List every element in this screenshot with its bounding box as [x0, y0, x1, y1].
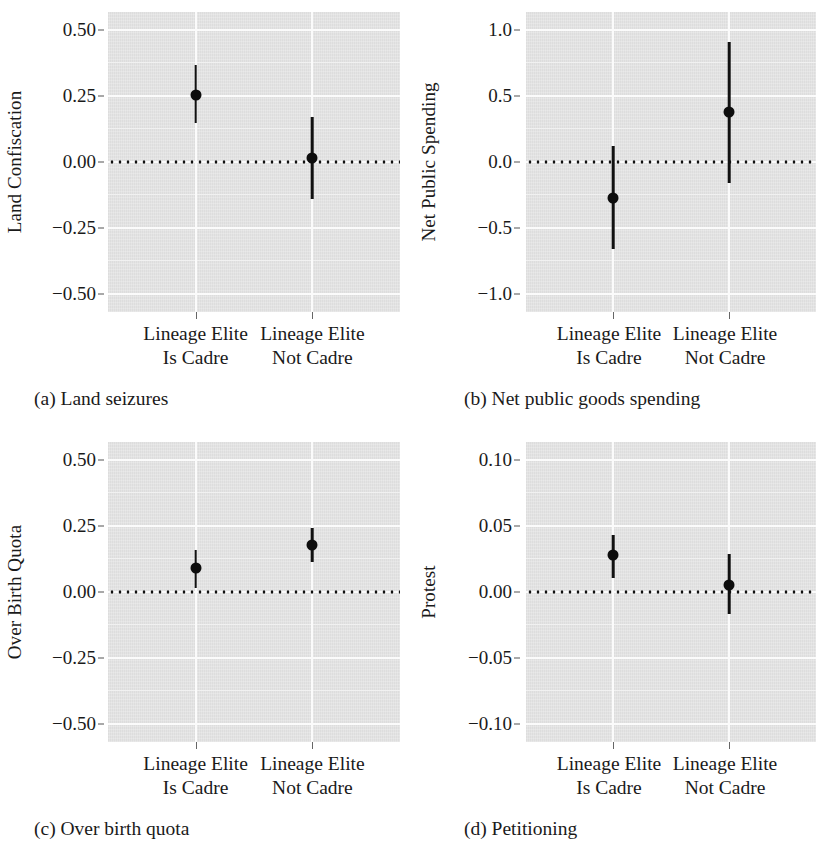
y-tick-label: 0.10: [479, 449, 512, 471]
y-tick-mark: [514, 227, 520, 228]
y-tick-label: −1.0: [478, 283, 512, 305]
x-category-label-line2: Is Cadre: [143, 346, 248, 370]
point-estimate-marker: [608, 192, 619, 203]
x-category-label: Lineage EliteNot Cadre: [673, 322, 778, 370]
x-category-label: Lineage EliteIs Cadre: [143, 322, 248, 370]
panel-c-over-birth-quota: Over Birth Quota 0.500.250.00−0.25−0.50 …: [0, 430, 414, 860]
gridline-horizontal-minor: [526, 624, 816, 625]
y-tick-label: 1.0: [488, 19, 512, 41]
x-category-label-line1: Lineage Elite: [673, 752, 778, 776]
y-tick-label: 0.05: [479, 515, 512, 537]
y-tick-mark: [98, 30, 104, 31]
panel-d-plot-area: [526, 442, 816, 742]
gridline-horizontal: [108, 657, 400, 659]
x-tick-mark: [312, 312, 313, 319]
panel-b-net-public-goods-spending: Net Public Spending 1.00.50.0−0.5−1.0 Li…: [414, 0, 829, 430]
point-estimate-marker: [307, 539, 318, 550]
panel-b-plot-area: [526, 12, 816, 312]
y-tick-mark: [98, 227, 104, 228]
x-category-label: Lineage EliteIs Cadre: [557, 322, 662, 370]
x-tick-mark: [613, 312, 614, 319]
y-tick-mark: [514, 657, 520, 658]
gridline-horizontal: [526, 227, 816, 229]
gridline-horizontal-minor: [108, 492, 400, 493]
gridline-horizontal: [526, 29, 816, 31]
x-category-label-line1: Lineage Elite: [143, 752, 248, 776]
x-category-label-line2: Is Cadre: [557, 346, 662, 370]
x-category-label: Lineage EliteNot Cadre: [260, 322, 365, 370]
zero-reference-line: [526, 591, 816, 594]
y-tick-mark: [514, 460, 520, 461]
y-tick-mark: [514, 30, 520, 31]
panel-a-x-tick-marks: [108, 312, 400, 320]
gridline-horizontal: [526, 293, 816, 295]
panel-a-y-tick-labels: 0.500.250.00−0.25−0.50: [28, 12, 104, 312]
coefficient-plot-figure: Land Confiscation 0.500.250.00−0.25−0.50…: [0, 0, 829, 860]
point-estimate-marker: [724, 107, 735, 118]
y-tick-mark: [514, 293, 520, 294]
x-tick-mark: [196, 312, 197, 319]
gridline-horizontal-minor: [108, 624, 400, 625]
x-category-label-line1: Lineage Elite: [143, 322, 248, 346]
panel-b-x-tick-marks: [526, 312, 816, 320]
gridline-horizontal: [108, 227, 400, 229]
panel-a-land-seizures: Land Confiscation 0.500.250.00−0.25−0.50…: [0, 0, 414, 430]
panel-a-plot-area: [108, 12, 400, 312]
gridline-horizontal: [526, 525, 816, 527]
point-estimate-marker: [190, 89, 201, 100]
panel-a-caption: (a) Land seizures: [34, 388, 168, 410]
panel-d-x-tick-labels: Lineage EliteIs CadreLineage EliteNot Ca…: [502, 752, 823, 814]
gridline-horizontal-minor: [526, 62, 816, 63]
gridline-horizontal: [108, 293, 400, 295]
gridline-horizontal: [526, 657, 816, 659]
zero-reference-line: [108, 591, 400, 594]
y-tick-label: −0.50: [52, 283, 96, 305]
y-tick-mark: [514, 526, 520, 527]
y-tick-mark: [98, 96, 104, 97]
gridline-horizontal: [108, 525, 400, 527]
y-tick-mark: [98, 592, 104, 593]
panel-c-y-tick-labels: 0.500.250.00−0.25−0.50: [28, 442, 104, 742]
gridline-horizontal: [108, 95, 400, 97]
gridline-horizontal-minor: [526, 492, 816, 493]
x-tick-mark: [729, 742, 730, 749]
gridline-horizontal-minor: [526, 260, 816, 261]
y-tick-mark: [514, 592, 520, 593]
y-tick-mark: [98, 657, 104, 658]
gridline-horizontal: [108, 723, 400, 725]
panel-c-x-tick-labels: Lineage EliteIs CadreLineage EliteNot Ca…: [88, 752, 408, 814]
y-tick-mark: [514, 162, 520, 163]
panel-a-y-axis-title: Land Confiscation: [2, 12, 28, 312]
x-category-label-line2: Is Cadre: [557, 776, 662, 800]
panel-d-petitioning: Protest 0.100.050.00−0.05−0.10 Lineage E…: [414, 430, 829, 860]
y-tick-label: 0.50: [63, 19, 96, 41]
panel-d-x-tick-marks: [526, 742, 816, 750]
panel-b-y-axis-title: Net Public Spending: [416, 12, 442, 312]
point-estimate-marker: [307, 153, 318, 164]
x-tick-mark: [729, 312, 730, 319]
gridline-horizontal: [526, 459, 816, 461]
gridline-horizontal: [526, 95, 816, 97]
y-tick-mark: [98, 460, 104, 461]
x-category-label-line2: Is Cadre: [143, 776, 248, 800]
gridline-horizontal-minor: [108, 194, 400, 195]
gridline-horizontal-minor: [108, 558, 400, 559]
y-tick-label: 0.5: [488, 85, 512, 107]
gridline-horizontal-minor: [108, 260, 400, 261]
x-category-label-line1: Lineage Elite: [260, 752, 365, 776]
y-tick-label: −0.50: [52, 713, 96, 735]
panel-c-plot-area: [108, 442, 400, 742]
gridline-horizontal-minor: [526, 690, 816, 691]
x-category-label-line2: Not Cadre: [673, 776, 778, 800]
y-tick-label: 0.00: [63, 151, 96, 173]
panel-c-caption: (c) Over birth quota: [34, 818, 189, 840]
zero-reference-line: [526, 161, 816, 164]
gridline-horizontal-minor: [108, 62, 400, 63]
x-category-label: Lineage EliteNot Cadre: [673, 752, 778, 800]
panel-c-x-tick-marks: [108, 742, 400, 750]
x-category-label-line1: Lineage Elite: [673, 322, 778, 346]
x-category-label-line1: Lineage Elite: [557, 322, 662, 346]
x-category-label: Lineage EliteIs Cadre: [143, 752, 248, 800]
point-estimate-marker: [608, 550, 619, 561]
x-tick-mark: [613, 742, 614, 749]
